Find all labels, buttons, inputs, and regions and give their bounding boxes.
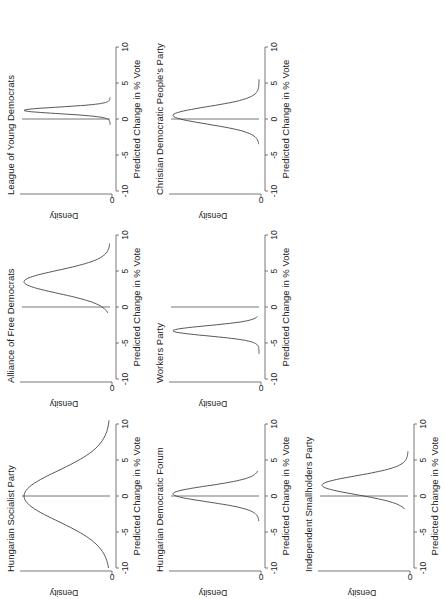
- x-axis-label: Predicted Change in % Vote: [429, 437, 440, 556]
- x-axis-label: Predicted Change in % Vote: [131, 248, 142, 367]
- panel-title: Hungarian Democratic Forum: [154, 447, 165, 572]
- x-tick-label: 0: [120, 304, 130, 309]
- x-tick-label: 0: [120, 493, 130, 498]
- y-axis-label: Density: [347, 588, 376, 598]
- x-tick-label: 10: [120, 230, 130, 240]
- y-tick-label: 0: [258, 195, 263, 205]
- x-tick-label: 0: [269, 116, 279, 121]
- y-tick-label: 0: [109, 383, 114, 393]
- y-tick-label: 0: [258, 572, 263, 582]
- y-axis-label: Density: [49, 211, 78, 221]
- figure-frame: Hungarian Socialist Party0Density-10-505…: [0, 0, 445, 599]
- x-tick-label: -5: [120, 151, 130, 159]
- y-axis-label: Density: [49, 588, 78, 598]
- y-tick-label: 0: [109, 195, 114, 205]
- x-tick-label: -10: [269, 373, 279, 386]
- x-axis-label: Predicted Change in % Vote: [280, 248, 291, 367]
- x-tick-label: 0: [269, 304, 279, 309]
- density-grid: Hungarian Socialist Party0Density-10-505…: [0, 0, 445, 599]
- x-tick-label: -5: [120, 339, 130, 347]
- x-tick-label: 5: [418, 457, 428, 462]
- x-tick-label: 10: [120, 419, 130, 429]
- density-panel: Independent Smallholders Party0Density-1…: [303, 419, 440, 598]
- x-tick-label: 5: [120, 80, 130, 85]
- density-curve: [322, 451, 408, 509]
- panel-title: Workers Party: [154, 323, 165, 383]
- x-tick-label: -10: [418, 562, 428, 575]
- density-panel: League of Young Democrats0Density-10-505…: [5, 42, 142, 221]
- x-tick-label: -5: [269, 151, 279, 159]
- x-tick-label: -10: [269, 562, 279, 575]
- x-tick-label: -5: [120, 528, 130, 536]
- y-tick-label: 0: [109, 572, 114, 582]
- y-axis-label: Density: [198, 211, 227, 221]
- x-tick-label: 5: [120, 457, 130, 462]
- density-curve: [173, 79, 259, 144]
- x-tick-label: -5: [418, 528, 428, 536]
- x-axis-label: Predicted Change in % Vote: [280, 437, 291, 556]
- density-curve: [24, 97, 110, 124]
- y-axis-label: Density: [49, 399, 78, 409]
- x-tick-label: 5: [120, 268, 130, 273]
- y-axis-label: Density: [198, 588, 227, 598]
- density-curve: [24, 420, 109, 568]
- x-tick-label: 10: [120, 42, 130, 52]
- density-panel: Alliance of Free Democrats0Density-10-50…: [5, 230, 142, 409]
- density-figure: Hungarian Socialist Party0Density-10-505…: [0, 0, 445, 599]
- x-axis-label: Predicted Change in % Vote: [131, 60, 142, 179]
- x-tick-label: 10: [269, 230, 279, 240]
- panel-title: Alliance of Free Democrats: [5, 268, 16, 383]
- density-panel: Hungarian Democratic Forum0Density-10-50…: [154, 419, 291, 598]
- density-panel: Hungarian Socialist Party0Density-10-505…: [5, 419, 142, 598]
- x-tick-label: 10: [269, 419, 279, 429]
- panel-title: Independent Smallholders Party: [303, 437, 314, 572]
- panel-title: Christian Democratic People's Party: [154, 43, 165, 195]
- x-tick-label: 10: [269, 42, 279, 52]
- y-axis-label: Density: [198, 399, 227, 409]
- density-curve: [173, 316, 259, 353]
- x-tick-label: 0: [418, 493, 428, 498]
- x-tick-label: 5: [269, 268, 279, 273]
- x-tick-label: 0: [120, 116, 130, 121]
- x-axis-label: Predicted Change in % Vote: [131, 437, 142, 556]
- y-tick-label: 0: [258, 383, 263, 393]
- density-curve: [24, 244, 110, 313]
- panel-title: Hungarian Socialist Party: [5, 465, 16, 572]
- density-panel: Christian Democratic People's Party0Dens…: [154, 42, 291, 221]
- panel-title: League of Young Democrats: [5, 75, 16, 195]
- x-tick-label: -10: [120, 185, 130, 198]
- x-tick-label: -10: [120, 562, 130, 575]
- x-tick-label: 5: [269, 80, 279, 85]
- x-tick-label: -5: [269, 339, 279, 347]
- x-axis-label: Predicted Change in % Vote: [280, 60, 291, 179]
- x-tick-label: -10: [269, 185, 279, 198]
- x-tick-label: -5: [269, 528, 279, 536]
- x-tick-label: 0: [269, 493, 279, 498]
- x-tick-label: 5: [269, 457, 279, 462]
- density-panel: Workers Party0Density-10-50510Predicted …: [154, 230, 291, 409]
- y-tick-label: 0: [407, 572, 412, 582]
- x-tick-label: -10: [120, 373, 130, 386]
- x-tick-label: 10: [418, 419, 428, 429]
